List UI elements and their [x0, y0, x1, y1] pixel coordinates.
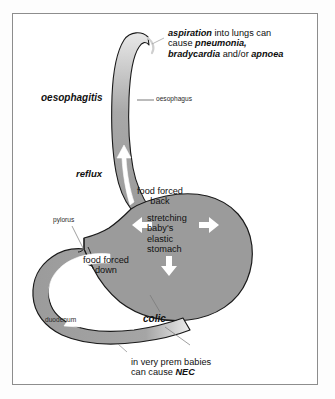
- stretching-line4: stomach: [147, 244, 182, 254]
- food-forced-down-line2: down: [95, 265, 117, 275]
- food-forced-down-label: food forceddown: [83, 255, 129, 276]
- food-forced-back-line1: food forced: [137, 186, 183, 196]
- aspiration-leader-line: [152, 38, 164, 44]
- stretching-stomach-label: stretchingbaby'selasticstomach: [147, 213, 187, 254]
- diagram-page: aspiration into lungs cancause pneumonia…: [0, 0, 335, 399]
- nec-callout: in very prem babiescan cause NEC: [131, 357, 211, 378]
- aspiration-term: aspiration: [168, 28, 212, 38]
- apnoea-term: apnoea: [251, 49, 283, 59]
- stretching-line1: stretching: [147, 213, 187, 223]
- stretching-line2: baby's: [147, 223, 173, 233]
- nec-leader-line: [118, 344, 127, 352]
- stretching-line3: elastic: [147, 234, 173, 244]
- aspiration-line2-pre: cause: [168, 38, 195, 48]
- nec-line2-pre: can cause: [131, 367, 175, 377]
- nec-term: NEC: [175, 367, 194, 377]
- oesophagus-label: oesophagus: [156, 95, 192, 102]
- food-forced-down-line1: food forced: [83, 255, 129, 265]
- bradycardia-term: bradycardia: [168, 49, 220, 59]
- reflux-label: reflux: [76, 169, 102, 180]
- oesophagitis-label: oesophagitis: [41, 92, 103, 103]
- pneumonia-term: pneumonia,: [195, 38, 247, 48]
- colic-label: colic: [143, 313, 166, 324]
- pylorus-leader-line: [72, 226, 84, 250]
- aspiration-line1-rest: into lungs can: [212, 28, 271, 38]
- pylorus-label: pylorus: [53, 216, 74, 223]
- nec-line1: in very prem babies: [131, 357, 211, 367]
- oesophagus-shape: [112, 33, 154, 209]
- aspiration-line3-mid: and/or: [220, 49, 251, 59]
- aspiration-callout: aspiration into lungs cancause pneumonia…: [168, 28, 283, 59]
- food-forced-back-line2: back: [150, 196, 169, 206]
- food-forced-back-label: food forcedback: [137, 186, 183, 207]
- duodenum-label: duodenum: [45, 316, 76, 323]
